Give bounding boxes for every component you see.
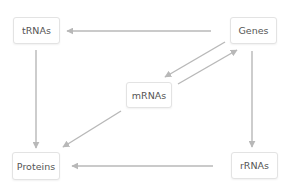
edge-genes-to-mrnas (165, 42, 225, 77)
node-label-mrnas: mRNAs (132, 90, 166, 101)
node-genes: Genes (230, 17, 277, 44)
node-label-rrnas: rRNAs (240, 160, 269, 171)
edge-mrnas-to-genes (178, 50, 237, 84)
node-label-trnas: tRNAs (22, 25, 51, 36)
node-proteins: Proteins (12, 152, 60, 180)
node-rrnas: rRNAs (231, 152, 278, 179)
diagram-canvas: tRNAs Genes mRNAs Proteins rRNAs (0, 0, 291, 189)
node-label-proteins: Proteins (17, 161, 55, 172)
node-mrnas: mRNAs (126, 82, 172, 108)
edge-mrnas-to-proteins (63, 111, 121, 147)
node-trnas: tRNAs (13, 17, 60, 44)
node-label-genes: Genes (238, 25, 268, 36)
